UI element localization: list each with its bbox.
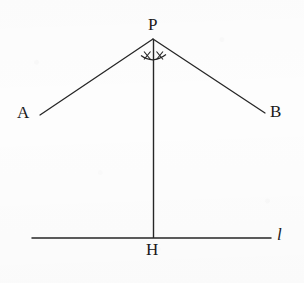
vertex-label-h: H xyxy=(146,241,158,258)
vertex-label-p: P xyxy=(148,16,157,33)
vertex-label-b: B xyxy=(270,103,281,120)
segment-pa xyxy=(40,39,153,115)
line-label-l: l xyxy=(277,226,282,243)
geometry-figure: P A B H l xyxy=(0,0,304,283)
vertex-label-a: A xyxy=(17,104,29,121)
segment-pb xyxy=(153,39,265,113)
